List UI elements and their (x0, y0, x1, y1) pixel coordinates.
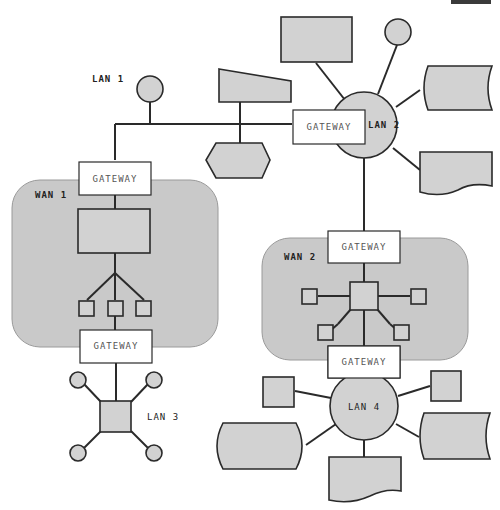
lan2-link-rect (316, 63, 345, 100)
lan4-storage-right (420, 413, 490, 459)
gateway-wan1-top-label: GATEWAY (93, 174, 138, 184)
lan1-hexagon-node (206, 143, 270, 178)
lan3-node-tr (146, 372, 162, 388)
wan2-label: WAN 2 (284, 252, 316, 262)
wan1-terminal-1 (79, 301, 94, 316)
lan4-storage-left (217, 423, 302, 469)
lan1-circle-node (137, 76, 163, 102)
lan1-label: LAN 1 (92, 74, 124, 84)
lan3-link-bl (84, 431, 101, 448)
wan2-node-br (394, 325, 409, 340)
lan3-node-bl (70, 445, 86, 461)
lan2-rect-node (281, 17, 352, 62)
lan3-label: LAN 3 (147, 412, 179, 422)
lan2-document-node (420, 152, 492, 195)
lan2-link-circle (378, 45, 397, 94)
lan2-circle-node (385, 19, 411, 45)
wan1-host-node (78, 209, 150, 253)
lan3-node-tl (70, 372, 86, 388)
corner-tab (451, 0, 491, 4)
lan3-link-br (131, 431, 148, 448)
network-diagram: LAN 1 LAN 2 GATEWAY GATEWAY WAN 1 GATEWA… (0, 0, 500, 510)
lan4-document-node (329, 457, 401, 502)
lan4-square-left (263, 377, 294, 407)
lan2-link-document (393, 148, 420, 170)
wan2-node-right (411, 289, 426, 304)
lan4-link-storage-right (396, 424, 419, 437)
wan1-terminal-3 (136, 301, 151, 316)
gateway-wan2-bottom-label-overlay: GATEWAY (342, 357, 387, 367)
wan2-node-bl (318, 325, 333, 340)
wan1-terminal-2 (108, 301, 123, 316)
lan1-trapezoid-node (219, 69, 291, 102)
lan3-link-tl (84, 384, 101, 402)
wan2-hub (350, 282, 378, 310)
gateway-lan1-lan2-label: GATEWAY (307, 122, 352, 132)
wan1-label: WAN 1 (35, 190, 67, 200)
lan2-link-storage (396, 90, 420, 107)
lan4-link-square-right (398, 386, 430, 396)
lan4-link-storage-left (306, 424, 336, 445)
lan4-link-square-left (295, 391, 331, 398)
lan2-label: LAN 2 (368, 120, 400, 130)
lan4-label: LAN 4 (348, 402, 380, 412)
lan4-square-right (431, 371, 461, 401)
lan3-link-tr (131, 384, 148, 402)
lan3-hub (100, 401, 131, 432)
lan2-storage-node (424, 66, 492, 110)
wan2-node-left (302, 289, 317, 304)
lan3-node-br (146, 445, 162, 461)
gateway-wan2-top-label: GATEWAY (342, 242, 387, 252)
gateway-wan1-bottom-label: GATEWAY (94, 341, 139, 351)
